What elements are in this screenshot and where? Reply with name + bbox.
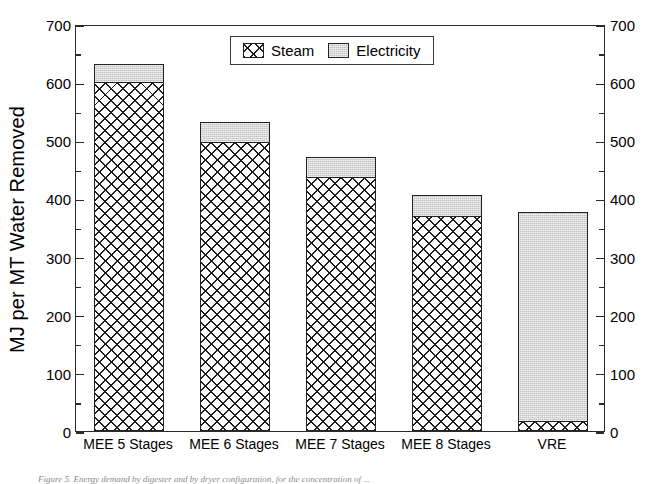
y-tick-major-right-0: [596, 432, 604, 433]
y-tick-major-right-300: [596, 258, 604, 259]
figure-caption: Figure 5. Energy demand by digester and …: [38, 474, 638, 484]
y-tick-major-right-500: [596, 142, 604, 143]
bar-segment-steam-0: [94, 82, 164, 431]
y-tick-minor-right-450: [599, 171, 604, 172]
y-tick-major-left-700: [76, 25, 84, 26]
y-tick-minor-left-550: [76, 113, 81, 114]
x-label-vre: VRE: [499, 436, 605, 452]
y-tick-major-right-700: [596, 25, 604, 26]
y-tick-minor-left-650: [76, 54, 81, 55]
y-tick-label-left-700: 700: [46, 18, 71, 33]
y-axis-left-tick-labels: 0100200300400500600700: [31, 25, 71, 433]
y-tick-label-right-500: 500: [610, 134, 635, 149]
x-label-mee-7-stages: MEE 7 Stages: [287, 436, 393, 452]
figure-caption-text: Figure 5. Energy demand by digester and …: [38, 474, 370, 484]
y-tick-label-left-400: 400: [46, 192, 71, 207]
y-tick-major-right-600: [596, 84, 604, 85]
bar-segment-electricity-1: [200, 122, 270, 142]
x-label-mee-6-stages: MEE 6 Stages: [181, 436, 287, 452]
grey-swatch: [328, 43, 349, 58]
y-tick-major-left-300: [76, 258, 84, 259]
bar-mee-7-stages: [306, 157, 376, 431]
y-tick-label-left-100: 100: [46, 367, 71, 382]
y-tick-major-left-600: [76, 84, 84, 85]
x-label-mee-8-stages: MEE 8 Stages: [393, 436, 499, 452]
plot-area: [75, 25, 605, 432]
bar-mee-8-stages: [412, 195, 482, 431]
y-tick-minor-right-150: [599, 345, 604, 346]
x-label-mee-5-stages: MEE 5 Stages: [75, 436, 181, 452]
y-tick-minor-left-50: [76, 403, 81, 404]
y-axis-label-container: MJ per MT Water Removed: [2, 25, 32, 433]
legend-entry-electricity: Electricity: [328, 42, 420, 59]
y-axis-label: MJ per MT Water Removed: [6, 106, 29, 353]
y-tick-label-right-100: 100: [610, 367, 635, 382]
bar-mee-5-stages: [94, 64, 164, 431]
y-tick-label-right-400: 400: [610, 192, 635, 207]
y-tick-label-right-300: 300: [610, 251, 635, 266]
bar-segment-electricity-0: [94, 64, 164, 84]
legend-label-steam: Steam: [271, 42, 314, 59]
y-tick-label-right-700: 700: [610, 18, 635, 33]
y-tick-label-left-500: 500: [46, 134, 71, 149]
y-tick-minor-right-550: [599, 113, 604, 114]
y-tick-minor-right-50: [599, 403, 604, 404]
y-tick-major-right-400: [596, 200, 604, 201]
y-tick-major-left-500: [76, 142, 84, 143]
y-tick-major-right-200: [596, 316, 604, 317]
x-axis-category-labels: MEE 5 StagesMEE 6 StagesMEE 7 StagesMEE …: [75, 436, 605, 456]
y-tick-minor-left-350: [76, 229, 81, 230]
y-tick-major-left-100: [76, 374, 84, 375]
y-tick-minor-left-250: [76, 287, 81, 288]
bar-segment-steam-3: [412, 215, 482, 431]
legend-label-electricity: Electricity: [356, 42, 420, 59]
bar-segment-electricity-3: [412, 195, 482, 217]
y-tick-label-left-600: 600: [46, 76, 71, 91]
chart-legend: SteamElectricity: [230, 36, 434, 65]
y-tick-label-left-300: 300: [46, 251, 71, 266]
y-tick-major-right-100: [596, 374, 604, 375]
y-tick-minor-right-350: [599, 229, 604, 230]
hatch-swatch: [243, 43, 264, 58]
y-tick-minor-left-450: [76, 171, 81, 172]
bar-mee-6-stages: [200, 122, 270, 431]
bar-segment-steam-4: [518, 421, 588, 431]
y-tick-major-left-0: [76, 432, 84, 433]
y-tick-minor-left-150: [76, 345, 81, 346]
y-tick-label-right-200: 200: [610, 309, 635, 324]
y-tick-label-left-200: 200: [46, 309, 71, 324]
y-tick-label-right-0: 0: [610, 425, 618, 440]
y-axis-right-tick-labels: 0100200300400500600700: [610, 25, 650, 433]
bar-segment-electricity-2: [306, 157, 376, 177]
bar-segment-steam-1: [200, 141, 270, 431]
figure-stacked-bar-chart: MJ per MT Water Removed 0100200300400500…: [0, 0, 666, 484]
y-tick-minor-right-650: [599, 54, 604, 55]
y-tick-label-left-0: 0: [63, 425, 71, 440]
y-tick-minor-right-250: [599, 287, 604, 288]
bar-segment-electricity-4: [518, 212, 588, 423]
bar-segment-steam-2: [306, 176, 376, 431]
legend-entry-steam: Steam: [243, 42, 314, 59]
y-tick-label-right-600: 600: [610, 76, 635, 91]
y-tick-major-left-200: [76, 316, 84, 317]
y-tick-major-left-400: [76, 200, 84, 201]
bar-vre: [518, 212, 588, 431]
